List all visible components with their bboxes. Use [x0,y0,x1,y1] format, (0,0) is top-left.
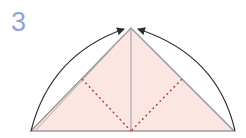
origami-diagram [0,0,246,138]
paper-triangle [31,28,234,131]
